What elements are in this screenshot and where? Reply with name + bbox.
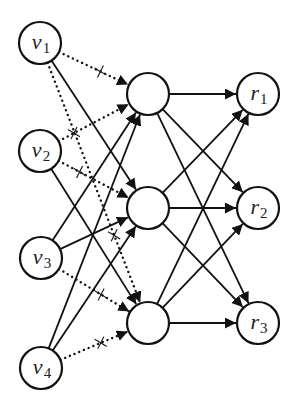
node-v4: [20, 347, 62, 389]
node-r1: [237, 73, 279, 115]
node-r3: [237, 302, 279, 344]
edge-v1-h1: [59, 52, 128, 85]
edge-v4-h2: [53, 226, 136, 350]
node-v3: [20, 237, 62, 279]
network-diagram-svg: [0, 0, 295, 413]
node-v2: [19, 130, 61, 172]
edge-v2-h2: [59, 161, 129, 198]
edge-v1-h2: [52, 61, 136, 190]
edge-v2-h1: [59, 104, 129, 141]
cross-icon: [108, 229, 120, 241]
node-h1: [127, 73, 169, 115]
edge-v2-h3: [51, 169, 136, 305]
edge-v3-h1: [52, 112, 136, 240]
network-diagram: v1 v2 v3 v4 r1 r2 r3: [0, 0, 295, 413]
edge-v1-h3: [48, 63, 141, 303]
node-h2: [127, 187, 169, 229]
edge-v4-h1: [49, 114, 140, 348]
node-v1: [19, 22, 61, 64]
edge-v4-h3: [60, 332, 127, 360]
node-h3: [127, 302, 169, 344]
cross-icon: [95, 289, 107, 301]
nodes-layer: [19, 22, 279, 389]
cross-icon: [95, 337, 107, 349]
node-r2: [237, 187, 279, 229]
cross-icon: [74, 166, 86, 178]
cross-icon: [94, 66, 106, 78]
